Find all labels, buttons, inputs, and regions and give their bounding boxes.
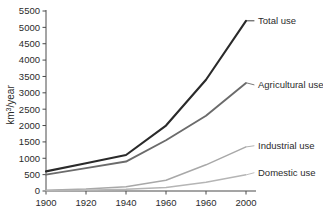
series-leader-line bbox=[247, 146, 254, 147]
water-use-line-chart: 0500100015002000250030003500400045005000… bbox=[0, 0, 323, 215]
chart-canvas: 0500100015002000250030003500400045005000… bbox=[0, 0, 323, 215]
y-tick-label: 5000 bbox=[19, 22, 40, 33]
series-leader-line bbox=[247, 173, 254, 175]
x-tick-label: 1900 bbox=[35, 197, 56, 208]
y-axis-group: 0500100015002000250030003500400045005000… bbox=[19, 5, 46, 196]
x-tick-labels: 190019201940196019602000 bbox=[35, 197, 256, 208]
series-label: Domestic use bbox=[258, 167, 316, 178]
series-labels-group: Total useAgricultural useIndustrial useD… bbox=[258, 15, 323, 178]
y-axis-title: km3/year bbox=[5, 85, 17, 125]
y-tick-label: 2500 bbox=[19, 104, 40, 115]
y-tick-labels: 0500100015002000250030003500400045005000… bbox=[19, 5, 40, 196]
y-tick-label: 5500 bbox=[19, 5, 40, 16]
x-tick-label: 1960 bbox=[195, 197, 216, 208]
x-tick-label: 2000 bbox=[235, 197, 256, 208]
y-tick-label: 2000 bbox=[19, 120, 40, 131]
series-leader-line bbox=[247, 83, 254, 85]
y-tick-label: 500 bbox=[24, 169, 40, 180]
x-axis-group: 190019201940196019602000 bbox=[35, 191, 256, 208]
x-tick-marks bbox=[46, 191, 246, 195]
y-tick-label: 3000 bbox=[19, 87, 40, 98]
y-tick-label: 4500 bbox=[19, 38, 40, 49]
series-line bbox=[46, 175, 246, 191]
series-line bbox=[46, 147, 246, 191]
series-label: Industrial use bbox=[258, 140, 315, 151]
y-tick-marks bbox=[43, 11, 47, 191]
series-label: Total use bbox=[258, 15, 296, 26]
x-tick-label: 1920 bbox=[75, 197, 96, 208]
x-tick-label: 1960 bbox=[155, 197, 176, 208]
series-lines-group bbox=[46, 21, 246, 191]
series-line bbox=[46, 21, 246, 172]
y-tick-label: 4000 bbox=[19, 54, 40, 65]
y-tick-label: 1000 bbox=[19, 153, 40, 164]
x-tick-label: 1940 bbox=[115, 197, 136, 208]
series-label: Agricultural use bbox=[258, 79, 323, 90]
series-leader-lines-group bbox=[247, 21, 254, 175]
y-tick-label: 3500 bbox=[19, 71, 40, 82]
y-tick-label: 0 bbox=[35, 185, 40, 196]
y-tick-label: 1500 bbox=[19, 136, 40, 147]
